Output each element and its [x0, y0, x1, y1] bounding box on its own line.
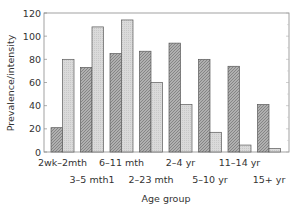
x-category-label: 2–4 yr	[166, 157, 195, 168]
x-axis-labels: 2wk–2mth3–5 mth16–11 mth2–23 mth2–4 yr5–…	[38, 157, 285, 185]
bar-series-1	[199, 59, 211, 152]
bar-series-1	[81, 67, 93, 152]
x-category-label: 11–14 yr	[219, 157, 261, 168]
bar-series-2	[181, 105, 193, 152]
x-category-label: 2–23 mth	[129, 174, 174, 185]
bars	[51, 20, 281, 152]
bar-series-2	[92, 27, 104, 152]
bar-series-2	[63, 59, 75, 152]
y-tick-label: 80	[29, 54, 41, 65]
y-tick-label: 40	[29, 100, 41, 111]
bar-series-2	[240, 145, 252, 152]
y-tick-label: 60	[29, 77, 41, 88]
bar-series-2	[210, 132, 222, 152]
bar-series-1	[169, 43, 181, 152]
y-tick-label: 120	[23, 8, 41, 19]
x-category-label: 2wk–2mth	[38, 157, 87, 168]
x-category-label: 6–11 mth	[99, 157, 144, 168]
y-tick-label: 20	[29, 123, 41, 134]
bar-series-1	[258, 105, 270, 152]
x-axis-title: Age group	[142, 193, 191, 204]
bar-series-1	[110, 54, 122, 152]
x-category-label: 3–5 mth1	[70, 174, 115, 185]
bar-series-1	[51, 128, 63, 152]
x-category-label: 5–10 yr	[192, 174, 228, 185]
y-tick-label: 100	[23, 31, 41, 42]
bar-series-2	[269, 149, 281, 152]
bar-chart: 020406080100120 2wk–2mth3–5 mth16–11 mth…	[0, 0, 295, 211]
bar-series-2	[122, 20, 134, 152]
x-category-label: 15+ yr	[253, 174, 286, 185]
bar-series-1	[140, 51, 152, 152]
y-axis-title: Prevalence/intensity	[5, 34, 16, 131]
y-tick-label: 0	[35, 147, 41, 158]
bar-series-1	[228, 66, 240, 152]
bar-series-2	[151, 83, 163, 153]
